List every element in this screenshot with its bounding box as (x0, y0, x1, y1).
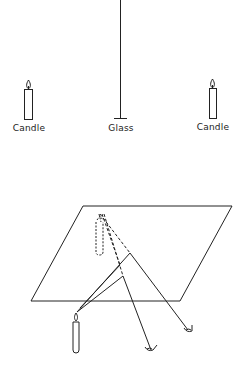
diagram-canvas (0, 0, 249, 373)
virtual-candle-icon (96, 214, 103, 255)
glass-label: Glass (108, 123, 133, 133)
right-candle-icon (210, 79, 217, 119)
right-candle-label: Candle (197, 122, 229, 132)
left-candle-label: Candle (13, 123, 45, 133)
left-candle-icon (25, 80, 33, 120)
real-candle-icon (73, 313, 79, 353)
virtual-rays (100, 214, 130, 276)
glass-pane (114, 0, 127, 119)
glass-plane (31, 206, 232, 301)
